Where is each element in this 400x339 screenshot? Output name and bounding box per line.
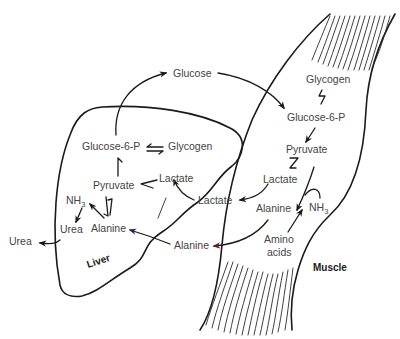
arrow-liver-pyruvate-to-g6p (118, 158, 122, 176)
arrow-liver-pyruvate-alanine (104, 197, 112, 216)
muscle-outline-left (200, 14, 330, 330)
label-liver-organ: Liver (85, 252, 111, 270)
muscle-fibers-top (312, 16, 390, 70)
arrow-liver-lactate-to-pyruvate (141, 180, 157, 188)
label-muscle-g6p: Glucose-6-P (287, 111, 345, 123)
arrow-muscle-lactate-to-blood (240, 184, 268, 200)
arrow-liver-g6p-glycogen (147, 144, 163, 154)
arrow-liver-nh3-to-urea (76, 208, 82, 222)
label-muscle-organ: Muscle (313, 262, 347, 273)
arrow-muscle-glycogen-g6p (319, 90, 325, 104)
arrow-liver-g6p-to-glucose (116, 73, 166, 135)
liver-fold (158, 198, 166, 218)
muscle-nh3-text: NH (309, 201, 324, 213)
label-muscle-lactate: Lactate (263, 173, 298, 185)
nh3-subscript: 3 (81, 200, 85, 209)
label-outside-urea: Urea (9, 235, 32, 247)
label-liver-urea: Urea (60, 223, 83, 235)
label-muscle-alanine: Alanine (256, 202, 291, 214)
metabolic-diagram: Glucose Glucose-6-P Glycogen Pyruvate La… (0, 0, 400, 339)
arrow-urea-out (40, 240, 60, 244)
label-blood-glucose: Glucose (173, 67, 212, 79)
diagram-canvas: Glucose Glucose-6-P Glycogen Pyruvate La… (0, 0, 400, 339)
muscle-outline-right (291, 14, 395, 330)
arrow-muscle-nh3-curl (305, 189, 320, 198)
label-liver-pyruvate: Pyruvate (93, 179, 135, 191)
arrow-muscle-g6p-to-pyruvate (306, 128, 315, 142)
label-liver-lactate: Lactate (159, 172, 194, 184)
label-liver-nh3: NH3 (66, 194, 85, 209)
label-muscle-amino: Amino (264, 233, 294, 245)
label-muscle-nh3: NH3 (309, 201, 328, 216)
label-muscle-glycogen: Glycogen (306, 73, 351, 85)
arrow-liver-alanine-to-nh3 (90, 204, 104, 218)
label-muscle-acids: acids (267, 246, 292, 258)
label-blood-lactate: Lactate (198, 194, 233, 206)
label-liver-glycogen: Glycogen (168, 140, 213, 152)
label-muscle-pyruvate: Pyruvate (286, 143, 328, 155)
nh3-text: NH (66, 194, 81, 206)
label-liver-alanine: Alanine (91, 222, 126, 234)
label-liver-g6p: Glucose-6-P (82, 140, 140, 152)
muscle-nh3-subscript: 3 (324, 207, 328, 216)
arrow-muscle-pyruvate-lactate (290, 158, 298, 168)
label-blood-alanine: Alanine (174, 239, 209, 251)
